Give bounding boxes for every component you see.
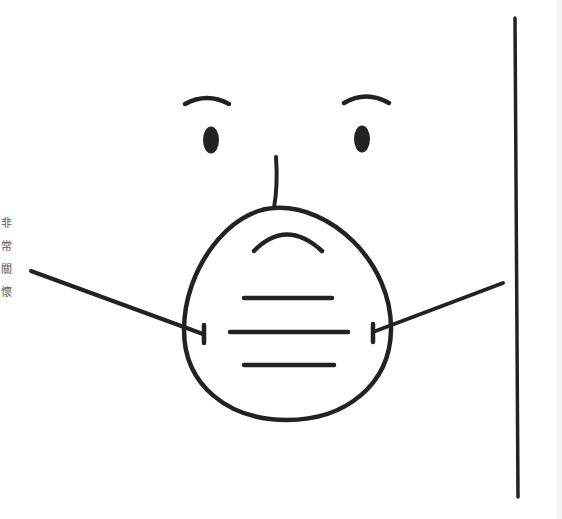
dust-mask-icon: [184, 208, 391, 420]
side-caption: 非 常 關 懷: [1, 212, 13, 304]
mask-strap-right-icon: [373, 283, 503, 332]
side-caption-char: 常: [1, 235, 13, 258]
vertical-divider: [515, 18, 518, 497]
nose-icon: [274, 157, 277, 208]
mask-strap-left-icon: [31, 271, 203, 334]
mask-face-illustration: [0, 0, 562, 519]
eyebrow-left-icon: [185, 98, 229, 104]
mask-arc-icon: [254, 235, 322, 252]
edge-strip: [557, 0, 562, 519]
eye-left-icon: [203, 127, 219, 154]
eye-right-icon: [354, 126, 370, 153]
illustration-canvas: [0, 0, 562, 519]
side-caption-char: 懷: [1, 281, 13, 304]
side-caption-char: 關: [1, 258, 13, 281]
side-caption-char: 非: [1, 212, 13, 235]
eyebrow-right-icon: [344, 97, 389, 104]
